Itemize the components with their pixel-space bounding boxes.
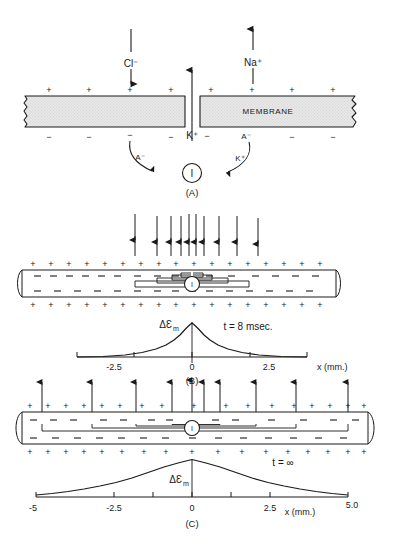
charge-plus: + xyxy=(239,447,244,457)
label-sodium: Na⁺ xyxy=(244,57,262,68)
carrier-node-c: I xyxy=(185,421,200,436)
charge-plus: + xyxy=(317,259,322,269)
charge-plus: + xyxy=(81,401,86,411)
charge-plus: + xyxy=(120,300,125,310)
charge-plus: + xyxy=(117,401,122,411)
charge-plus: + xyxy=(305,447,310,457)
charge-plus: + xyxy=(127,85,132,95)
xtick-c-neg5: -5 xyxy=(29,503,37,513)
label-anion-carried: A⁻ xyxy=(135,153,144,162)
charge-plus: + xyxy=(245,259,250,269)
label-potassium-carried: K⁺ xyxy=(235,154,244,163)
charge-plus: + xyxy=(227,259,232,269)
label-potassium-channel: K⁺ xyxy=(186,130,198,141)
charge-plus: + xyxy=(141,447,146,457)
charge-plus: + xyxy=(208,85,213,95)
annotation-time-c: t = ∞ xyxy=(272,457,293,468)
charge-plus: + xyxy=(66,300,71,310)
charge-plus: + xyxy=(163,447,168,457)
charge-plus: + xyxy=(84,300,89,310)
charge-plus: + xyxy=(299,300,304,310)
charge-plus: + xyxy=(291,401,296,411)
charge-plus: + xyxy=(159,401,164,411)
charge-plus: + xyxy=(84,259,89,269)
axis-label-delta-em-sub-c: m xyxy=(183,480,189,487)
charge-plus: + xyxy=(309,401,314,411)
charge-plus: + xyxy=(30,300,35,310)
charge-plus: + xyxy=(156,300,161,310)
charge-plus: + xyxy=(46,85,51,95)
charge-plus: + xyxy=(223,401,228,411)
carrier-node-a: I xyxy=(183,164,202,183)
charge-plus: + xyxy=(281,300,286,310)
charge-plus: + xyxy=(173,259,178,269)
charge-plus: + xyxy=(191,259,196,269)
charge-plus: + xyxy=(209,300,214,310)
charge-plus: + xyxy=(63,401,68,411)
charge-plus: + xyxy=(263,259,268,269)
charge-plus: + xyxy=(27,447,32,457)
charge-plus: + xyxy=(119,447,124,457)
charge-plus: + xyxy=(330,85,335,95)
xtick-c-zero: 0 xyxy=(189,503,194,513)
axis-label-delta-em-c: ΔƐ xyxy=(169,474,182,485)
xtick-c-pos25: 2.5 xyxy=(264,503,277,513)
charge-plus: + xyxy=(285,447,290,457)
xtick-b-pos25: 2.5 xyxy=(263,362,276,372)
carrier-label: I xyxy=(191,168,194,179)
carrier-node-b: I xyxy=(185,277,200,292)
charge-minus: − xyxy=(86,132,91,142)
charge-plus: + xyxy=(209,259,214,269)
charge-plus: + xyxy=(227,300,232,310)
axis-label-delta-em-sub: m xyxy=(173,325,179,332)
charge-plus: + xyxy=(99,401,104,411)
charge-plus: + xyxy=(215,447,220,457)
charge-plus: + xyxy=(102,300,107,310)
charge-minus: − xyxy=(289,132,294,142)
xtick-b-zero: 0 xyxy=(189,362,194,372)
label-chloride: Cl⁻ xyxy=(124,58,138,69)
carrier-label: I xyxy=(191,281,193,288)
charge-plus: + xyxy=(45,401,50,411)
axon-tube-b xyxy=(18,270,341,297)
label-anion-membrane: A⁻ xyxy=(241,132,250,141)
charge-plus: + xyxy=(281,259,286,269)
xtick-b-neg25: -2.5 xyxy=(106,362,122,372)
xaxis-label-b: x (mm.) xyxy=(317,362,348,372)
charge-plus: + xyxy=(66,259,71,269)
charge-plus: + xyxy=(191,401,196,411)
charge-plus: + xyxy=(245,300,250,310)
charge-minus: − xyxy=(46,132,51,142)
figure-svg: Cl⁻ Na⁺ K⁺ MEMBRANE + + + + + + + xyxy=(0,0,398,551)
charge-plus: + xyxy=(138,300,143,310)
charge-plus: + xyxy=(173,300,178,310)
charge-plus: + xyxy=(45,447,50,457)
charge-plus: + xyxy=(99,447,104,457)
charge-plus: + xyxy=(299,259,304,269)
charge-plus: + xyxy=(139,401,144,411)
charge-plus: + xyxy=(263,300,268,310)
xaxis-label-c: x (mm.) xyxy=(285,507,316,517)
membrane-label: MEMBRANE xyxy=(242,107,293,116)
charge-plus: + xyxy=(327,401,332,411)
charge-plus: + xyxy=(345,401,350,411)
charge-plus: + xyxy=(361,447,366,457)
charge-plus: + xyxy=(120,259,125,269)
charge-plus: + xyxy=(48,259,53,269)
xtick-c-pos5: 5.0 xyxy=(346,500,359,510)
charge-plus: + xyxy=(138,259,143,269)
carrier-label: I xyxy=(191,425,193,432)
charge-minus: − xyxy=(127,130,132,140)
annotation-time-b: t = 8 msec. xyxy=(223,321,272,332)
charge-plus: + xyxy=(249,85,254,95)
charge-minus: − xyxy=(204,131,209,141)
charge-plus: + xyxy=(269,401,274,411)
charge-plus: + xyxy=(289,85,294,95)
charge-plus: + xyxy=(317,300,322,310)
panel-caption-c: (C) xyxy=(185,518,198,529)
charge-plus: + xyxy=(191,300,196,310)
charge-plus: + xyxy=(81,447,86,457)
charge-plus: + xyxy=(27,401,32,411)
charge-plus: + xyxy=(245,401,250,411)
figure-membrane-potential: Cl⁻ Na⁺ K⁺ MEMBRANE + + + + + + + xyxy=(0,0,398,551)
